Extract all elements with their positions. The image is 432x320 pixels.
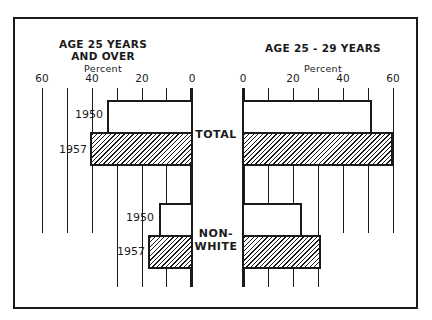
right-bar-total-1957: [242, 132, 393, 166]
left-bar-total-1957: [90, 132, 193, 166]
left-panel-title-line1: AGE 25 YEARS: [48, 38, 158, 50]
right-bar-nonwhite-1950: [242, 203, 302, 237]
year-label-nonwhite-1957: 1957: [117, 245, 145, 258]
right-tick-0: 0: [240, 72, 247, 84]
left-gridline-60: [42, 88, 43, 233]
category-label-total: TOTAL: [195, 128, 237, 141]
category-label-nonwhite-line2: WHITE: [195, 240, 238, 253]
right-gridline-60: [393, 88, 394, 233]
right-axis-label: Percent: [268, 63, 378, 74]
year-label-nonwhite-1950: 1950: [126, 211, 154, 224]
left-bar-nonwhite-1957: [148, 235, 193, 269]
right-tick-20: 20: [286, 72, 299, 84]
year-label-total-1950: 1950: [75, 108, 103, 121]
right-bar-total-1950: [242, 100, 372, 134]
category-label-nonwhite-line1: NON-: [199, 227, 233, 240]
left-tick-20: 20: [135, 72, 148, 84]
left-gridline-50: [67, 88, 68, 233]
year-label-total-1957: 1957: [59, 143, 87, 156]
left-bar-total-1950: [107, 100, 193, 134]
left-tick-0: 0: [189, 72, 196, 84]
right-tick-40: 40: [336, 72, 349, 84]
left-tick-40: 40: [85, 72, 98, 84]
right-bar-nonwhite-1957: [242, 235, 321, 269]
right-panel-title: AGE 25 - 29 YEARS: [258, 42, 388, 54]
chart: AGE 25 YEARS AND OVER Percent AGE 25 - 2…: [0, 0, 432, 320]
right-tick-60: 60: [386, 72, 399, 84]
left-bar-nonwhite-1950: [159, 203, 193, 237]
left-panel-title-line2: AND OVER: [48, 50, 158, 62]
left-tick-60: 60: [35, 72, 48, 84]
